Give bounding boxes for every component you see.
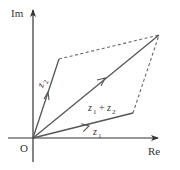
svg-text:2: 2 — [112, 108, 116, 116]
vector-z2 — [33, 59, 59, 138]
complex-plane-diagram: Im Re O z 2 z 1 z 1 + z 2 — [0, 0, 180, 170]
svg-text:2: 2 — [42, 79, 51, 85]
svg-text:1: 1 — [98, 132, 102, 140]
svg-text:z: z — [106, 102, 111, 113]
svg-text:+: + — [99, 102, 105, 113]
z2-label: z 2 — [34, 77, 50, 91]
imaginary-axis-label: Im — [11, 7, 24, 19]
origin-label: O — [20, 142, 28, 154]
dashed-edge-z1-to-sum — [133, 35, 159, 113]
svg-text:1: 1 — [93, 108, 97, 116]
sum-label: z 1 + z 2 — [87, 102, 116, 116]
svg-text:z: z — [92, 126, 97, 137]
real-axis-label: Re — [148, 145, 160, 157]
svg-text:z: z — [87, 102, 92, 113]
